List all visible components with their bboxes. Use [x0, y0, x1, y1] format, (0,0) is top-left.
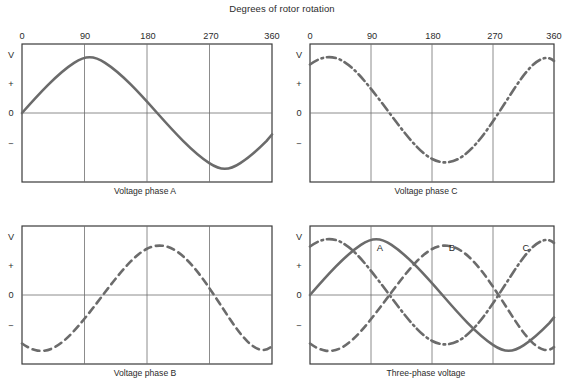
y-label-v: V	[296, 50, 303, 60]
y-label-plus: +	[296, 79, 301, 89]
curve-label-a: A	[377, 242, 384, 253]
y-label-zero: 0	[8, 290, 13, 300]
y-label-plus: +	[296, 261, 301, 271]
x-tick-270: 270	[487, 31, 502, 41]
curve-label-b: B	[449, 242, 455, 253]
x-tick-0: 0	[307, 31, 312, 41]
y-label-minus: −	[8, 321, 13, 331]
x-tick-360: 360	[264, 31, 279, 41]
plot-voltage-phase-a: 0 90 180 270 360 V + 0 −	[0, 24, 290, 184]
x-tick-labels: 0 90 180 270 360	[307, 31, 561, 41]
y-label-v: V	[8, 50, 15, 60]
caption-voltage-phase-a: Voltage phase A	[0, 186, 290, 196]
y-tick-labels: V + 0 −	[296, 232, 303, 331]
curve-label-c: C	[523, 242, 530, 253]
x-tick-360: 360	[546, 31, 561, 41]
caption-three-phase-voltage: Three-phase voltage	[288, 368, 564, 378]
x-tick-0: 0	[19, 31, 24, 41]
y-label-minus: −	[296, 139, 301, 149]
plot-three-phase-voltage: V + 0 − A B C	[288, 206, 564, 366]
panel-voltage-phase-a: 0 90 180 270 360 V + 0 − Voltage phase A	[0, 24, 290, 200]
panel-three-phase-voltage: V + 0 − A B C Three-phase voltage	[288, 206, 564, 382]
x-tick-270: 270	[203, 31, 218, 41]
plot-voltage-phase-c: 0 90 180 270 360 V + 0 −	[288, 24, 564, 184]
y-label-v: V	[296, 232, 303, 242]
three-phase-voltage-figure: Degrees of rotor rotation 0 90 180 270 3…	[0, 0, 564, 392]
x-tick-90: 90	[367, 31, 377, 41]
y-label-minus: −	[296, 321, 301, 331]
caption-voltage-phase-c: Voltage phase C	[288, 186, 564, 196]
x-tick-labels: 0 90 180 270 360	[19, 31, 279, 41]
x-tick-180: 180	[140, 31, 155, 41]
y-tick-labels: V + 0 −	[8, 232, 15, 331]
figure-title: Degrees of rotor rotation	[0, 3, 564, 14]
y-label-zero: 0	[296, 108, 301, 118]
y-tick-labels: V + 0 −	[8, 50, 15, 149]
panel-voltage-phase-b: V + 0 − Voltage phase B	[0, 206, 290, 382]
y-label-zero: 0	[8, 108, 13, 118]
caption-voltage-phase-b: Voltage phase B	[0, 368, 290, 378]
y-label-plus: +	[8, 261, 13, 271]
plot-voltage-phase-b: V + 0 −	[0, 206, 290, 366]
y-label-v: V	[8, 232, 15, 242]
x-tick-180: 180	[425, 31, 440, 41]
y-label-minus: −	[8, 139, 13, 149]
y-tick-labels: V + 0 −	[296, 50, 303, 149]
x-tick-90: 90	[80, 31, 90, 41]
y-label-plus: +	[8, 79, 13, 89]
y-label-zero: 0	[296, 290, 301, 300]
panel-voltage-phase-c: 0 90 180 270 360 V + 0 − Voltage phase C	[288, 24, 564, 200]
